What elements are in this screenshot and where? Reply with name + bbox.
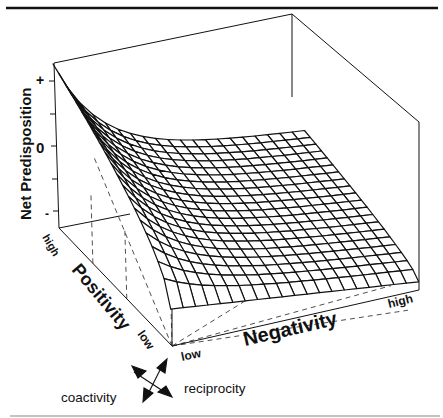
z-tick-zero: 0 (36, 139, 44, 156)
positivity-low-label: low (135, 328, 158, 353)
z-axis-label: Net Predisposition (17, 87, 34, 220)
reciprocity-label: reciprocity (184, 381, 246, 396)
surface-mesh (53, 64, 419, 309)
negativity-high-label: high (386, 291, 414, 311)
arrow-head-reciprocity-downright (158, 386, 172, 397)
arrow-head-coactivity-up (157, 359, 167, 373)
surface-plot: + 0 - Net Predisposition high Positivity… (0, 0, 443, 418)
z-tick-minus: - (45, 207, 49, 221)
positivity-high-label: high (40, 232, 62, 258)
arrow-head-coactivity-down (143, 388, 153, 402)
negativity-axis-label: Negativity (241, 307, 340, 350)
coactivity-label: coactivity (61, 390, 117, 405)
z-tick-plus: + (36, 72, 44, 88)
negativity-low-label: low (180, 346, 203, 364)
direction-legend (132, 359, 172, 402)
